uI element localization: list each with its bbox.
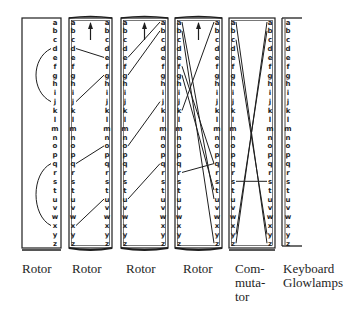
contact-letter: o <box>53 142 58 150</box>
contact-letter: m <box>159 125 166 133</box>
contact-letter: t <box>105 187 109 195</box>
contact-letter: z <box>53 240 57 248</box>
contact-letter: m <box>266 125 273 133</box>
contact-letter: s <box>71 178 75 186</box>
contact-letter: d <box>176 45 181 53</box>
contact-letter: k <box>71 107 76 115</box>
contact-letter: m <box>229 125 236 133</box>
contact-letter: j <box>123 98 126 106</box>
contact-letter: y <box>215 231 220 239</box>
commutator: abcdefghijklmnopqrstuvwxyzabcdefghijklmn… <box>229 18 275 250</box>
wire <box>76 49 104 58</box>
contact-letter: i <box>232 89 234 97</box>
wire <box>182 75 214 190</box>
contact-letter: s <box>231 178 235 186</box>
contact-letter: t <box>123 187 127 195</box>
contact-letter: r <box>231 169 235 177</box>
contact-letter: b <box>267 27 272 35</box>
contact-letter: y <box>286 231 291 239</box>
contact-letter: u <box>53 196 58 204</box>
contact-letter: z <box>268 240 272 248</box>
contact-letter: p <box>160 151 165 159</box>
contact-letter: u <box>71 196 76 204</box>
contact-letter: w <box>176 213 183 221</box>
contact-letter: e <box>123 54 128 62</box>
contact-letter: x <box>161 222 166 230</box>
contact-letter: k <box>268 107 273 115</box>
contact-letter: w <box>160 213 167 221</box>
contact-letter: o <box>105 142 110 150</box>
contact-letter: v <box>123 204 128 212</box>
contact-letter: n <box>177 134 182 142</box>
contact-letter: d <box>267 45 272 53</box>
contact-letter: m <box>213 125 220 133</box>
contact-letter: e <box>161 54 166 62</box>
contact-letter: a <box>286 19 291 27</box>
contact-letter: q <box>104 160 109 168</box>
contact-letter: r <box>286 169 290 177</box>
contact-letter: l <box>72 116 74 124</box>
contact-letter: s <box>215 178 219 186</box>
contact-letter: z <box>231 240 235 248</box>
contact-letter: c <box>53 36 57 44</box>
contact-letter: y <box>123 231 128 239</box>
contact-letter: i <box>162 89 164 97</box>
contact-letter: o <box>161 142 166 150</box>
contact-letter: b <box>70 27 75 35</box>
frame-inner <box>124 21 166 246</box>
contact-letter: g <box>52 72 57 80</box>
arrow-up-head-icon <box>196 22 201 29</box>
contact-letter: e <box>215 54 220 62</box>
contact-letter: t <box>53 187 57 195</box>
contact-letter: o <box>123 142 128 150</box>
contact-letter: w <box>104 213 111 221</box>
contact-letter: b <box>285 27 290 35</box>
contact-letter: g <box>122 72 127 80</box>
contact-letter: q <box>122 160 127 168</box>
contact-letter: b <box>122 27 127 35</box>
contact-letter: q <box>160 160 165 168</box>
contact-letter: n <box>161 134 166 142</box>
contact-letter: j <box>268 98 271 106</box>
contact-letter: u <box>177 196 182 204</box>
contact-letter: l <box>162 116 164 124</box>
contact-letter: r <box>53 169 57 177</box>
label-rotor-2: Rotor <box>72 262 102 276</box>
contact-letter: x <box>231 222 236 230</box>
contact-letter: s <box>105 178 109 186</box>
contact-letter: z <box>215 240 219 248</box>
contact-letter: a <box>161 19 166 27</box>
contact-letter: b <box>176 27 181 35</box>
contact-letter: x <box>53 222 58 230</box>
contact-letter: e <box>105 54 110 62</box>
contact-letter: t <box>71 187 75 195</box>
reflector-arc <box>36 164 51 226</box>
contact-letter: q <box>214 160 219 168</box>
contact-letter: l <box>106 116 108 124</box>
wire <box>182 66 214 163</box>
contact-letter: m <box>284 125 291 133</box>
contact-letter: r <box>161 169 165 177</box>
contact-letter: l <box>54 116 56 124</box>
contact-letter: f <box>231 63 235 71</box>
contact-letter: i <box>269 89 271 97</box>
contact-letter: t <box>161 187 165 195</box>
contact-letter: g <box>70 72 75 80</box>
contact-letter: h <box>71 80 76 88</box>
contact-letter: s <box>53 178 57 186</box>
contact-letter: j <box>177 98 180 106</box>
contact-letter: j <box>231 98 234 106</box>
rotor-4: abcdefghijklmnopqrstuvwxyzabcdefghijklmn… <box>175 17 222 251</box>
contact-letter: r <box>215 169 219 177</box>
arrow-up-head-icon <box>142 22 147 29</box>
contact-letter: d <box>230 45 235 53</box>
contact-letter: e <box>286 54 291 62</box>
contact-letter: i <box>106 89 108 97</box>
contact-letter: b <box>160 27 165 35</box>
contact-letter: w <box>285 213 292 221</box>
contact-letter: y <box>177 231 182 239</box>
contact-letter: v <box>71 204 76 212</box>
contact-letter: j <box>286 98 289 106</box>
contact-letter: q <box>52 160 57 168</box>
label-commutator-line3: tor <box>235 290 249 304</box>
